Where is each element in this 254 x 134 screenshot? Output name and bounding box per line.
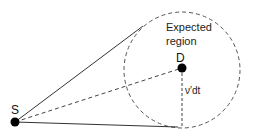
tangent-line-bottom: [15, 122, 178, 127]
source-to-destination-line: [15, 68, 182, 122]
radius-label: ν′dt: [185, 84, 200, 97]
source-node-dot: [11, 118, 20, 127]
diagram-canvas: [0, 0, 254, 134]
source-label: S: [11, 104, 19, 117]
region-label-line2: region: [166, 35, 197, 48]
destination-label: D: [176, 52, 185, 65]
region-label-line1: Expected: [166, 21, 212, 34]
